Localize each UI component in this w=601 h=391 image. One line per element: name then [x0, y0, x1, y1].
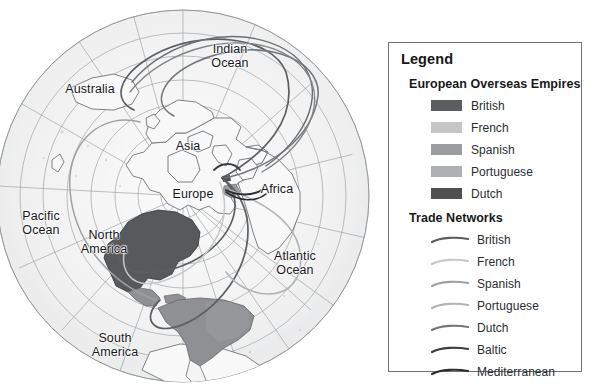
network-line-key-dutch	[431, 322, 469, 333]
empire-swatch-portuguese	[431, 166, 462, 177]
empire-swatch-spanish	[431, 144, 462, 155]
empire-label-spanish: Spanish	[471, 143, 515, 157]
empire-label-dutch: Dutch	[471, 187, 503, 201]
legend-network-row-french[interactable]: French	[431, 253, 515, 270]
empire-label-portuguese: Portuguese	[471, 165, 533, 179]
network-label-french: French	[477, 255, 515, 269]
empire-label-french: French	[471, 121, 509, 135]
legend-network-row-british[interactable]: British	[431, 231, 511, 248]
network-line-key-mediterranean	[431, 366, 469, 377]
legend-network-row-dutch[interactable]: Dutch	[431, 319, 509, 336]
network-line-key-french	[431, 256, 469, 267]
network-line-key-portuguese	[431, 300, 469, 311]
network-line-key-spanish	[431, 278, 469, 289]
legend-heading-networks: Trade Networks	[409, 211, 503, 225]
network-label-spanish: Spanish	[477, 277, 521, 291]
empire-label-british: British	[471, 99, 505, 113]
legend-empire-row-spanish[interactable]: Spanish	[431, 141, 515, 158]
network-label-dutch: Dutch	[477, 321, 509, 335]
legend-network-row-spanish[interactable]: Spanish	[431, 275, 521, 292]
network-label-british: British	[477, 233, 511, 247]
empire-swatch-dutch	[431, 188, 462, 199]
network-line-key-baltic	[431, 344, 469, 355]
network-label-mediterranean: Mediterranean	[477, 365, 555, 379]
legend-box: Legend European Overseas Empires British…	[388, 42, 582, 372]
legend-network-row-mediterranean[interactable]: Mediterranean	[431, 363, 555, 380]
empire-swatch-british	[431, 100, 462, 111]
legend-empire-row-british[interactable]: British	[431, 97, 505, 114]
legend-network-row-baltic[interactable]: Baltic	[431, 341, 507, 358]
network-line-key-british	[431, 234, 469, 245]
legend-network-row-portuguese[interactable]: Portuguese	[431, 297, 539, 314]
legend-empire-row-portuguese[interactable]: Portuguese	[431, 163, 533, 180]
legend-empire-row-french[interactable]: French	[431, 119, 509, 136]
empire-swatch-french	[431, 122, 462, 133]
world-map-graphic	[0, 0, 378, 391]
legend-title: Legend	[401, 51, 453, 67]
network-label-portuguese: Portuguese	[477, 299, 539, 313]
world-map-panel: Indian Ocean Australia Asia Europe Afric…	[0, 0, 378, 391]
network-label-baltic: Baltic	[477, 343, 507, 357]
legend-heading-empires: European Overseas Empires	[409, 77, 580, 91]
legend-empire-row-dutch[interactable]: Dutch	[431, 185, 503, 202]
